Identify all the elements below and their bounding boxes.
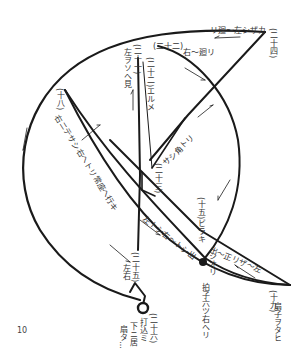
label-n26-1: 打込ミ xyxy=(138,318,147,342)
label-n21-text: 左ヲソへ見 xyxy=(122,48,131,88)
label-n26: (二十六) xyxy=(148,313,157,343)
label-n14-text: リ廻〜左シザカ xyxy=(210,24,266,35)
end-circle-icon xyxy=(138,303,148,313)
page-number: 10 xyxy=(17,326,27,335)
arrow-diagonal-up xyxy=(198,105,213,117)
left-vertical-line xyxy=(138,58,140,250)
label-n26-2: 下ニ居 xyxy=(128,322,137,346)
arrow-vertical xyxy=(131,90,133,110)
arrow-top xyxy=(215,36,240,38)
stomp-dot-icon xyxy=(199,258,207,266)
label-n25: (二十五) xyxy=(130,252,139,282)
end-zigzag xyxy=(130,283,145,305)
arrow-right-arc xyxy=(218,180,230,200)
label-n23: (二十三) xyxy=(153,163,162,193)
label-n22: (二十二) xyxy=(153,40,183,51)
label-n22-text: 右〜廻リ xyxy=(183,46,215,57)
label-n16-caption: 拍子六ツ右へリ xyxy=(200,283,209,339)
arrow-inner-arc xyxy=(185,68,205,80)
label-n18: (十八) xyxy=(55,88,64,110)
label-n19-caption: 扇子ヲタヒ xyxy=(272,302,281,342)
label-n15: (十五)ビラキ xyxy=(196,197,205,243)
label-n21: (二十一) xyxy=(132,44,141,74)
label-n25-text: 左右 xyxy=(121,264,130,280)
label-n14: (二十四) xyxy=(268,28,277,58)
label-n26-3: 扇タ… xyxy=(118,325,127,349)
dance-path-diagram xyxy=(0,0,301,363)
arrow-far-left xyxy=(110,245,130,262)
label-n20: (二十二)エルメ xyxy=(145,57,154,111)
